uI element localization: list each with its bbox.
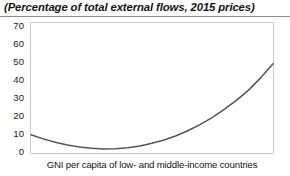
y-tick-label: 10 xyxy=(13,129,24,139)
y-axis: 70 60 50 40 30 20 10 0 xyxy=(0,22,27,154)
y-tick-label: 60 xyxy=(13,39,24,49)
y-tick-label: 0 xyxy=(19,147,24,157)
y-tick-label: 30 xyxy=(13,93,24,103)
chart-title: (Percentage of total external flows, 201… xyxy=(4,0,288,14)
y-tick-label: 20 xyxy=(13,111,24,121)
y-tick-label: 50 xyxy=(13,57,24,67)
chart-canvas xyxy=(31,23,273,153)
plot-area xyxy=(30,22,274,154)
chart-figure: (Percentage of total external flows, 201… xyxy=(0,0,290,176)
y-tick-label: 70 xyxy=(13,21,24,31)
title-divider xyxy=(0,16,290,17)
data-series-line xyxy=(31,64,273,149)
y-tick-label: 40 xyxy=(13,75,24,85)
x-axis-label: GNI per capita of low- and middle-income… xyxy=(30,159,274,171)
